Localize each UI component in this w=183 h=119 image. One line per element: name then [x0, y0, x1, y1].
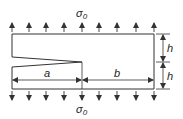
crack-length-label: a [44, 67, 50, 79]
diagram-canvas: σ0 σ0 a b h h [0, 0, 183, 119]
top-stress-arrows [12, 23, 154, 32]
stress-label-bottom: σ0 [76, 103, 88, 117]
bottom-stress-arrows [12, 91, 154, 100]
cracked-plate-diagram: σ0 σ0 a b h h [0, 0, 183, 119]
half-height-label-lower: h [167, 70, 173, 82]
half-height-label-upper: h [167, 42, 173, 54]
plate-outline [12, 34, 154, 89]
stress-label-top: σ0 [76, 7, 88, 21]
ligament-length-label: b [114, 67, 120, 79]
